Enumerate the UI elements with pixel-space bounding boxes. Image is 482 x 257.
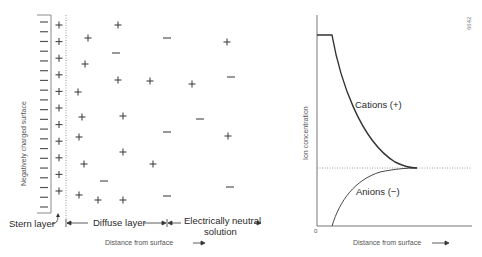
left-distance-arrow <box>193 241 205 245</box>
right-distance-arrow <box>432 241 449 245</box>
cations-label: Cations (+) <box>355 99 402 110</box>
figure-id: 6642 <box>466 17 472 30</box>
neutral-solution-label-1: Electrically neutral <box>184 215 261 226</box>
stern-layer-cations <box>56 22 63 195</box>
diffuse-ions <box>75 22 236 204</box>
y-axis-label: Ion concentration <box>302 106 309 160</box>
right-x-axis-label: Distance from surface <box>353 239 421 246</box>
left-x-axis-label: Distance from surface <box>105 239 173 246</box>
anions-label: Anions (−) <box>356 186 400 197</box>
anions-curve <box>332 168 417 226</box>
diffuse-layer-label: Diffuse layer <box>93 217 146 228</box>
stern-layer-label: Stern layer <box>9 218 55 229</box>
surface-label: Negatively charged surface <box>20 101 27 186</box>
origin-label: 0 <box>314 228 317 234</box>
neutral-solution-label-2: solution <box>204 226 237 237</box>
charged-surface <box>37 15 51 213</box>
